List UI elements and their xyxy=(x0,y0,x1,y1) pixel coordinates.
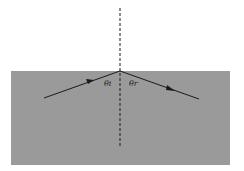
reflection-diagram xyxy=(0,0,244,171)
reflected-angle-label: θr xyxy=(129,79,138,88)
incident-angle-label: θi xyxy=(104,79,111,88)
